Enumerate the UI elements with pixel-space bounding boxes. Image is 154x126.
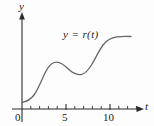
xtick-label-0: 0 bbox=[15, 112, 21, 123]
curve-r-of-t bbox=[22, 36, 131, 102]
graph-figure: y t 0 5 10 y = r(t) bbox=[0, 0, 154, 126]
xtick-label-10: 10 bbox=[103, 112, 114, 123]
graph-canvas bbox=[0, 0, 154, 126]
x-axis-arrow-icon bbox=[137, 106, 145, 112]
y-axis-arrow-icon bbox=[19, 12, 25, 20]
y-axis-label: y bbox=[19, 1, 24, 12]
x-axis-label: t bbox=[145, 101, 148, 112]
curve-equation-label: y = r(t) bbox=[63, 29, 99, 40]
xtick-label-5: 5 bbox=[62, 112, 68, 123]
